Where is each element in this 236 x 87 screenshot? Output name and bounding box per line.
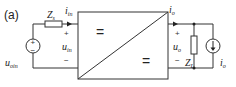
output-voltage-minus: − (175, 56, 180, 65)
input-voltage-label: uin (62, 41, 72, 53)
voltage-source-icon: + − (26, 38, 40, 55)
output-voltage-plus: + (175, 29, 180, 38)
output-voltage-label: uo (173, 41, 181, 53)
source-voltage-label: uoin (5, 57, 18, 69)
junction-node-top (193, 23, 196, 26)
source-impedance-resistor-icon (45, 21, 62, 27)
input-current-label: iin (65, 5, 72, 17)
source-impedance-label: Zs (47, 9, 56, 21)
converter-output-dc-symbol: = (142, 53, 150, 69)
converter-input-dc-symbol: = (96, 24, 104, 40)
current-source-label: io (220, 57, 226, 69)
output-current-label: io (169, 4, 175, 16)
load-impedance-resistor-icon (191, 36, 197, 54)
voltage-source-minus: − (31, 46, 36, 55)
input-voltage-plus: + (64, 29, 69, 38)
dc-dc-converter-block (78, 12, 168, 79)
panel-label: (a) (4, 8, 19, 22)
input-current-arrow-icon (67, 22, 72, 27)
current-source-icon (206, 39, 220, 53)
load-impedance-label: ZL (185, 57, 195, 69)
circuit-diagram: (a) + − uoin Zs iin + uin − = = io + (0, 0, 236, 87)
input-voltage-minus: − (64, 56, 69, 65)
output-current-arrow-icon (173, 22, 178, 27)
